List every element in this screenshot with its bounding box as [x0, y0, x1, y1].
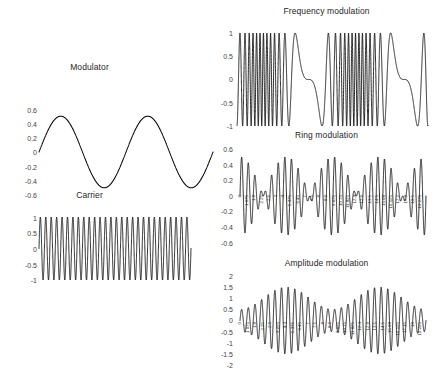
- amplitude-modulation-svg: 2 1.5 1 0.5 0 -0.5 -1 -1.5 -2 01.0751.82…: [216, 272, 437, 384]
- xtick: 7: [305, 321, 310, 324]
- xtick: 9.675: [335, 321, 340, 333]
- ytick: 0.5: [223, 306, 233, 313]
- am-yaxis-labels: 2 1.5 1 0.5 0 -0.5 -1 -1.5 -2: [221, 273, 233, 369]
- xtick: 17.15: [402, 321, 407, 333]
- xtick: 2.25: [260, 321, 265, 330]
- xtick: 19.275: [417, 194, 422, 208]
- xtick: 13.5: [367, 194, 372, 203]
- modulator-title: Modulator: [0, 62, 197, 72]
- xtick: 5.375: [287, 194, 292, 206]
- ytick: -0.5: [221, 329, 233, 336]
- xtick: 15.08: [387, 321, 392, 333]
- xtick: 12.9: [365, 321, 370, 330]
- figure-canvas: { "figure": { "background_color": "#ffff…: [0, 0, 437, 392]
- xtick: 4: [280, 194, 285, 197]
- ring-modulation-title: Ring modulation: [216, 130, 437, 140]
- xtick: 11.825: [345, 194, 350, 208]
- xtick: 8: [316, 194, 321, 197]
- frequency-modulation-plot: 1 0.5 0 -0.5 -1: [216, 20, 437, 130]
- ytick: 0.4: [27, 121, 37, 128]
- panel-carrier: Carrier 1 0.5 0 -0.5 -1: [0, 190, 215, 285]
- ytick: -1: [227, 123, 233, 130]
- ytick: -1: [227, 340, 233, 347]
- xtick: 12.4: [357, 321, 362, 330]
- frequency-modulation-waveform: [237, 33, 428, 126]
- xtick: 7.5: [309, 194, 314, 201]
- xtick: 1.075: [244, 194, 249, 206]
- ytick: -1: [31, 277, 37, 284]
- xtick: 16.125: [388, 194, 393, 208]
- xtick: 10.75: [338, 194, 343, 206]
- carrier-title: Carrier: [0, 190, 197, 200]
- carrier-yaxis-labels: 1 0.5 0 -0.5 -1: [25, 215, 37, 285]
- ytick: -0.4: [221, 224, 233, 231]
- ytick: 0: [33, 149, 37, 156]
- fm-yaxis-labels: 1 0.5 0 -0.5 -1: [221, 30, 233, 130]
- ytick: 2: [229, 273, 233, 280]
- ring-yaxis-labels: 0.6 0.4 0.2 0 -0.2 -0.4 -0.6: [221, 146, 233, 247]
- ytick: -0.4: [25, 178, 37, 185]
- amplitude-modulation-waveform: [240, 287, 426, 354]
- ytick: 0.5: [27, 230, 37, 237]
- ytick: -0.2: [25, 164, 37, 171]
- amplitude-modulation-title: Amplitude modulation: [216, 258, 437, 268]
- ytick: -0.6: [221, 240, 233, 247]
- ytick: -0.5: [221, 100, 233, 107]
- xtick: 19.225: [417, 321, 422, 335]
- ytick: 0.2: [223, 177, 233, 184]
- ytick: -2: [227, 362, 233, 369]
- xtick: 18: [410, 321, 415, 326]
- ytick: 1: [229, 30, 233, 37]
- xtick: 6.45: [297, 321, 302, 330]
- modulator-yaxis-labels: 0.6 0.4 0.2 0 -0.2 -0.4 -0.6: [25, 107, 37, 200]
- xtick: 1.075: [245, 321, 250, 333]
- amplitude-modulation-plot: 2 1.5 1 0.5 0 -0.5 -1 -1.5 -2 01.0751.82…: [216, 272, 437, 384]
- xtick: 9.675: [331, 194, 336, 206]
- xtick: 5.375: [290, 321, 295, 333]
- xtick: 0: [237, 321, 242, 324]
- xtick: 8: [320, 321, 325, 324]
- ytick: 0.2: [27, 135, 37, 142]
- carrier-svg: 1 0.5 0 -0.5 -1: [0, 204, 215, 284]
- xtick: 6.45: [295, 194, 300, 203]
- xtick: 7.5: [312, 321, 317, 328]
- xtick: 17.8: [403, 194, 408, 203]
- xtick: 2.6: [266, 194, 271, 201]
- xtick: 8.6: [323, 194, 328, 201]
- ring-modulation-plot: 0.6 0.4 0.2 0 -0.2 -0.4 -0.6 01.0751.82.…: [216, 144, 437, 249]
- am-xaxis-labels: 01.0751.82.252.63.2254.35.3756.4577.588.…: [237, 321, 422, 335]
- ytick: -0.2: [221, 208, 233, 215]
- xtick: 2.6: [267, 321, 272, 328]
- carrier-waveform: [39, 217, 191, 280]
- ytick: 1.5: [223, 284, 233, 291]
- xtick: 10.75: [342, 321, 347, 333]
- ring-modulation-svg: 0.6 0.4 0.2 0 -0.2 -0.4 -0.6 01.0751.82.…: [216, 144, 437, 249]
- xtick: 14.5: [380, 321, 385, 330]
- xtick: 16.125: [395, 321, 400, 335]
- panel-ring-modulation: Ring modulation 0.6 0.4 0.2 0 -0.2 -0.4 …: [216, 130, 437, 255]
- xtick: 12.4: [352, 194, 357, 203]
- xtick: 8.6: [327, 321, 332, 328]
- xtick: 0: [237, 194, 242, 197]
- ytick: -0.5: [25, 262, 37, 269]
- ytick: 0: [229, 317, 233, 324]
- xtick: 2.25: [259, 194, 264, 203]
- xtick: 3: [273, 194, 278, 197]
- ytick: 0.5: [223, 53, 233, 60]
- panel-frequency-modulation: Frequency modulation 1 0.5 0 -0.5 -1: [216, 6, 437, 132]
- frequency-modulation-title: Frequency modulation: [216, 6, 437, 16]
- xtick: 4.3: [282, 321, 287, 328]
- ytick: 1: [229, 295, 233, 302]
- xtick: 13.5: [372, 321, 377, 330]
- xtick: 3.225: [275, 321, 280, 333]
- ytick: 0: [229, 193, 233, 200]
- xtick: 14.5: [374, 194, 379, 203]
- xtick: 15.08: [381, 194, 386, 206]
- modulator-plot: 0.6 0.4 0.2 0 -0.2 -0.4 -0.6: [0, 80, 215, 185]
- xtick: 17.2: [395, 194, 400, 203]
- carrier-plot: 1 0.5 0 -0.5 -1: [0, 204, 215, 284]
- panel-modulator: Modulator 0.6 0.4 0.2 0 -0.2 -0.4 -0.6: [0, 62, 215, 187]
- ytick: 0: [33, 246, 37, 253]
- frequency-modulation-svg: 1 0.5 0 -0.5 -1: [216, 20, 437, 130]
- xtick: 12.9: [359, 194, 364, 203]
